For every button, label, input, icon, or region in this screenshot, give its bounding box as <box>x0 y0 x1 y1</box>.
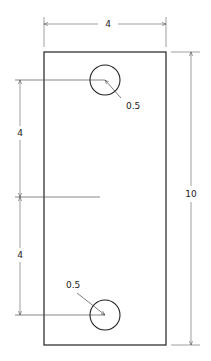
left-spacing-dimensions: 4 4 <box>15 80 105 315</box>
right-height-dimension: 10 <box>171 52 200 345</box>
upper-hole-radius-label: 0.5 <box>126 101 140 111</box>
technical-drawing: 4 10 4 4 0.5 0.5 <box>0 0 211 361</box>
upper-hole: 0.5 <box>90 65 140 111</box>
top-width-label: 4 <box>105 19 111 29</box>
right-height-label: 10 <box>185 189 197 199</box>
left-lower-spacing-label: 4 <box>17 250 23 260</box>
lower-hole-radius-label: 0.5 <box>66 280 80 290</box>
lower-hole: 0.5 <box>66 280 120 330</box>
plate-outline <box>44 52 166 345</box>
left-upper-spacing-label: 4 <box>17 128 23 138</box>
top-width-dimension: 4 <box>44 17 166 47</box>
